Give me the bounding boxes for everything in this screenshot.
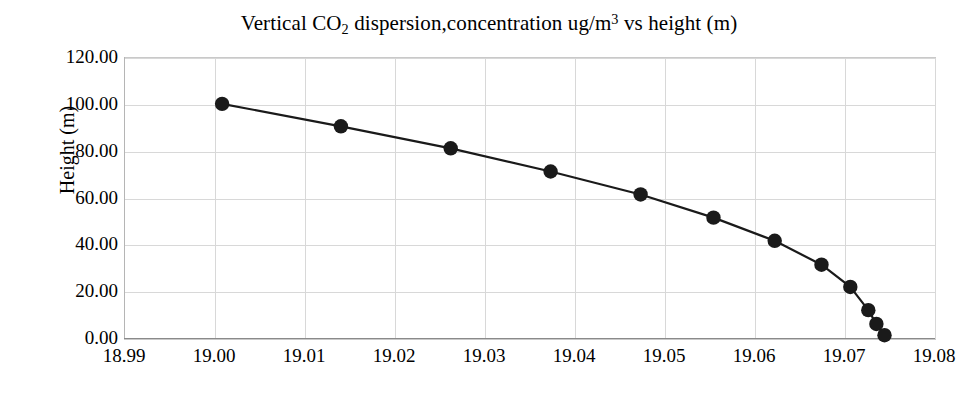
x-axis-tick-label: 19.08 [889,345,978,366]
plot-area [124,57,936,340]
x-axis-tick-label: 19.05 [619,345,709,366]
chart-title-part-3: vs height (m) [619,11,738,35]
chart-title-part-2: dispersion,concentration ug/m [349,11,612,35]
x-axis-line [124,338,935,339]
gridline-vertical [305,58,306,339]
gridline-vertical [215,58,216,339]
gridline-horizontal [125,292,935,293]
gridline-horizontal [125,105,935,106]
chart-figure: Vertical CO2 dispersion,concentration ug… [0,0,978,399]
y-axis-tick-label: 40.00 [8,234,118,253]
x-axis-tick-label: 19.01 [259,345,349,366]
x-axis-tick-label: 19.02 [349,345,439,366]
gridline-horizontal [125,199,935,200]
gridline-vertical [485,58,486,339]
chart-title-part-1: Vertical CO [241,11,342,35]
gridline-vertical [935,58,936,339]
chart-title-subscript: 2 [342,21,349,37]
x-axis-tick-label: 19.03 [439,345,529,366]
y-axis-tick-label: 20.00 [8,281,118,300]
y-axis-tick-label: 120.00 [8,47,118,66]
gridline-vertical [575,58,576,339]
gridline-vertical [845,58,846,339]
gridline-vertical [395,58,396,339]
y-axis-line [124,57,125,339]
chart-title: Vertical CO2 dispersion,concentration ug… [0,11,978,38]
y-axis-tick-label: 100.00 [8,94,118,113]
gridline-vertical [665,58,666,339]
gridline-horizontal [125,152,935,153]
gridline-horizontal [125,245,935,246]
y-axis-tick-label: 80.00 [8,141,118,160]
gridline-vertical [755,58,756,339]
x-axis-tick-label: 19.04 [529,345,619,366]
gridline-horizontal [125,58,935,59]
x-axis-tick-label: 18.99 [79,345,169,366]
x-axis-tick-label: 19.00 [169,345,259,366]
y-axis-tick-label: 60.00 [8,188,118,207]
x-axis-tick-label: 19.07 [799,345,889,366]
x-axis-tick-label: 19.06 [709,345,799,366]
chart-title-superscript: 3 [611,11,618,27]
y-axis-tick-labels: 0.0020.0040.0060.0080.00100.00120.00 [4,0,118,399]
